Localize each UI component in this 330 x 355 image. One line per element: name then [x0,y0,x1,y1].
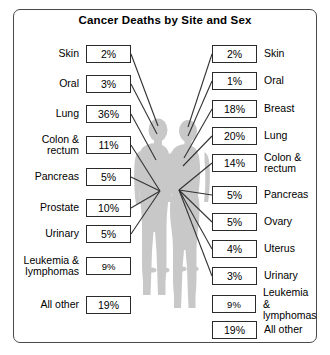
male-row-prostate: Prostate 10% [18,199,131,217]
male-row-urinary: Urinary 5% [18,225,131,243]
female-site-label: Pancreas [257,189,308,200]
male-row-oral: Oral 3% [18,75,131,93]
female-site-label: Colon & rectum [257,152,301,174]
male-row-all-other: All other 19% [18,296,131,314]
male-value-box: 3% [86,75,131,93]
male-value-box: 2% [86,45,131,63]
male-value-box: 5% [86,168,131,186]
male-row-pancreas: Pancreas 5% [18,168,131,186]
female-site-label: Skin [257,48,284,59]
male-value-box: 36% [86,105,131,123]
female-row-oral: 1% Oral [212,72,317,90]
female-row-uterus: 4% Uterus [212,240,317,258]
male-site-label: Oral [59,78,86,89]
female-value-box: 19% [212,321,257,339]
female-site-label: Breast [257,103,294,114]
female-row-all-other: 19% All other [212,321,317,339]
female-value-box: 4% [212,240,257,258]
male-value-box: 19% [86,296,131,314]
female-value-box: 9% [212,295,256,313]
female-value-box: 14% [212,154,257,172]
male-row-leukemia-lymphomas: Leukemia & lymphomas 9% [18,253,131,279]
male-value-box: 10% [86,199,131,217]
female-site-label: Urinary [257,270,298,281]
male-site-label: Prostate [40,202,86,213]
female-site-label: Oral [257,75,284,86]
female-row-colon-rectum: 14% Colon & rectum [212,150,317,176]
male-value-box: 11% [86,136,131,154]
male-site-label: Lung [56,108,86,119]
female-row-urinary: 3% Urinary [212,267,317,285]
female-site-label: Leukemia & lymphomas [256,287,317,320]
female-site-label: Ovary [257,216,292,227]
female-value-box: 18% [212,100,257,118]
male-row-lung: Lung 36% [18,105,131,123]
male-site-label: Leukemia & lymphomas [24,255,86,277]
male-site-label: Urinary [45,228,86,239]
female-value-box: 3% [212,267,257,285]
male-site-label: Skin [59,48,86,59]
female-site-label: All other [257,324,303,335]
female-row-pancreas: 5% Pancreas [212,186,317,204]
female-row-ovary: 5% Ovary [212,213,317,231]
female-row-lung: 20% Lung [212,127,317,145]
page-title: Cancer Deaths by Site and Sex [0,14,330,26]
male-value-box: 5% [86,225,131,243]
female-value-box: 20% [212,127,257,145]
male-value-box: 9% [86,257,131,275]
male-site-label: Colon & rectum [42,134,86,156]
chart-figure: Cancer Deaths by Site and Sex [0,0,330,355]
female-row-breast: 18% Breast [212,100,317,118]
male-row-skin: Skin 2% [18,45,131,63]
male-site-label: All other [40,299,86,310]
female-site-label: Uterus [257,243,295,254]
female-row-leukemia-lymphomas: 9% Leukemia & lymphomas [212,291,317,317]
male-site-label: Pancreas [35,171,86,182]
female-value-box: 5% [212,186,257,204]
female-site-label: Lung [257,130,287,141]
male-row-colon-rectum: Colon & rectum 11% [18,136,131,154]
female-value-box: 5% [212,213,257,231]
female-row-skin: 2% Skin [212,45,317,63]
female-value-box: 2% [212,45,257,63]
female-value-box: 1% [212,72,257,90]
